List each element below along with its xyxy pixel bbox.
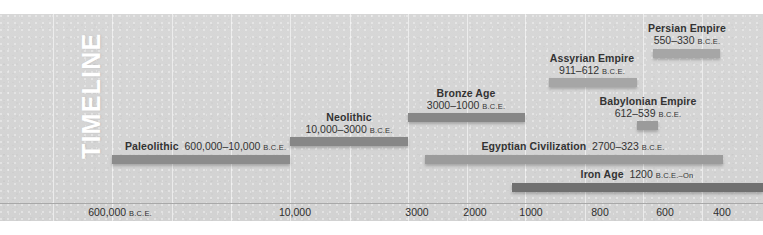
label-bronze-age: Bronze Age3000–1000 B.C.E. <box>427 88 505 112</box>
chart-plot-area: Paleolithic 600,000–10,000 B.C.E.Neolith… <box>0 14 763 221</box>
gridline-3 <box>231 14 232 221</box>
chart-panel: Paleolithic 600,000–10,000 B.C.E.Neolith… <box>0 14 763 221</box>
bar-egyptian-civilization <box>425 155 723 164</box>
bar-persian-empire <box>653 49 720 58</box>
era-range-neolithic: 10,000–3000 B.C.E. <box>305 124 392 137</box>
tick-suffix: B.C.E. <box>129 209 152 218</box>
era-suffix-neolithic: B.C.E. <box>370 126 393 135</box>
era-name-babylonian-empire: Babylonian Empire <box>600 96 697 108</box>
era-suffix-persian-empire: B.C.E. <box>697 37 720 46</box>
tick-label-3000: 3000 <box>405 206 428 218</box>
bar-neolithic <box>290 137 408 146</box>
bar-paleolithic <box>112 155 290 164</box>
era-range-assyrian-empire: 911–612 B.C.E. <box>550 65 634 78</box>
era-name-neolithic: Neolithic <box>305 112 392 124</box>
era-suffix-assyrian-empire: B.C.E. <box>602 67 625 76</box>
era-suffix-egyptian-civilization: B.C.E. <box>642 143 665 152</box>
label-babylonian-empire: Babylonian Empire612–539 B.C.E. <box>600 96 697 120</box>
bar-iron-age <box>512 183 763 192</box>
era-suffix-babylonian-empire: B.C.E. <box>658 110 681 119</box>
label-paleolithic: Paleolithic 600,000–10,000 B.C.E. <box>125 141 286 154</box>
era-name-egyptian-civilization: Egyptian Civilization <box>481 140 586 152</box>
gridline-4 <box>290 14 291 221</box>
era-range-bronze-age: 3000–1000 B.C.E. <box>427 100 505 113</box>
timeline-infographic: Paleolithic 600,000–10,000 B.C.E.Neolith… <box>0 0 763 235</box>
tick-label-800: 800 <box>591 206 609 218</box>
x-axis-line <box>0 203 763 204</box>
era-suffix-iron-age: B.C.E.–On <box>656 171 694 180</box>
tick-label-10000: 10,000 <box>279 206 311 218</box>
label-egyptian-civilization: Egyptian Civilization 2700–323 B.C.E. <box>481 141 664 154</box>
tick-label-2000: 2000 <box>463 206 486 218</box>
tick-label-400: 400 <box>713 206 731 218</box>
tick-label-600: 600 <box>656 206 674 218</box>
tick-label-1000: 1000 <box>519 206 542 218</box>
era-suffix-bronze-age: B.C.E. <box>482 102 505 111</box>
era-range-egyptian-civilization: 2700–323 B.C.E. <box>586 140 664 152</box>
era-name-assyrian-empire: Assyrian Empire <box>550 53 634 65</box>
era-range-babylonian-empire: 612–539 B.C.E. <box>600 108 697 121</box>
era-range-paleolithic: 600,000–10,000 B.C.E. <box>179 140 287 152</box>
era-range-persian-empire: 550–330 B.C.E. <box>648 35 726 48</box>
era-name-iron-age: Iron Age <box>581 168 624 180</box>
page-title: TIMELINE <box>79 33 104 159</box>
gridline-2 <box>172 14 173 221</box>
bar-assyrian-empire <box>549 78 637 87</box>
label-assyrian-empire: Assyrian Empire911–612 B.C.E. <box>550 53 634 77</box>
tick-label-600000: 600,000 B.C.E. <box>88 206 152 218</box>
era-name-bronze-age: Bronze Age <box>427 88 505 100</box>
era-name-persian-empire: Persian Empire <box>648 23 726 35</box>
era-suffix-paleolithic: B.C.E. <box>263 143 286 152</box>
gridline-1 <box>112 14 113 221</box>
era-range-iron-age: 1200 B.C.E.–On <box>624 168 694 180</box>
era-name-paleolithic: Paleolithic <box>125 140 179 152</box>
gridline-0 <box>53 14 54 221</box>
label-iron-age: Iron Age 1200 B.C.E.–On <box>581 169 694 182</box>
label-neolithic: Neolithic10,000–3000 B.C.E. <box>305 112 392 136</box>
bar-babylonian-empire <box>637 121 658 130</box>
bar-bronze-age <box>408 113 525 122</box>
label-persian-empire: Persian Empire550–330 B.C.E. <box>648 23 726 47</box>
